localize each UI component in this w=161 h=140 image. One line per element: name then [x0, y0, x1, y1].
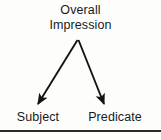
diagram-figure: Overall Impression Subject Predicate	[0, 0, 161, 140]
node-subject: Subject	[8, 110, 68, 125]
arrow-to-predicate	[79, 40, 105, 104]
arrow-to-subject	[38, 40, 78, 104]
node-predicate: Predicate	[78, 110, 152, 125]
horizontal-rule	[0, 130, 161, 132]
